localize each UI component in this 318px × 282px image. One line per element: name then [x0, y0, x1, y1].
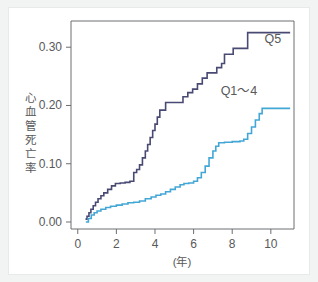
series-labels: Q5Q1〜4 — [221, 32, 281, 98]
y-tick-label: 0.00 — [39, 215, 63, 229]
series-line-q5 — [85, 33, 290, 219]
y-axis-title: 心血管死亡率 — [25, 92, 37, 174]
cardiovascular-mortality-chart: 0.000.100.200.30 0246810 Q5Q1〜4 心血管死亡率 (… — [9, 8, 311, 276]
axes-group — [71, 21, 294, 229]
y-axis-title-char: 心 — [25, 92, 37, 104]
y-axis-title-char: 血 — [25, 105, 37, 118]
series-label-q1-4: Q1〜4 — [221, 84, 258, 98]
x-tick-label: 8 — [229, 237, 236, 251]
x-axis-title: (年) — [173, 255, 192, 268]
y-axis-title-char: 死 — [25, 134, 37, 146]
figure-root: 0.000.100.200.30 0246810 Q5Q1〜4 心血管死亡率 (… — [0, 0, 318, 282]
x-tick-label: 6 — [190, 237, 197, 251]
y-axis-ticks: 0.000.100.200.30 — [39, 40, 71, 229]
x-tick-label: 4 — [152, 237, 159, 251]
x-tick-label: 2 — [113, 237, 120, 251]
y-axis-title-char: 率 — [25, 161, 36, 174]
series-line-q1-4 — [86, 108, 290, 222]
plot-frame — [71, 21, 294, 229]
y-axis-title-char: 亡 — [25, 147, 36, 160]
series-group — [85, 33, 290, 222]
x-axis-ticks: 0246810 — [74, 229, 277, 251]
y-tick-label: 0.10 — [39, 157, 63, 171]
y-axis-title-char: 管 — [25, 119, 36, 132]
y-tick-label: 0.20 — [39, 98, 63, 112]
figure-panel: 0.000.100.200.30 0246810 Q5Q1〜4 心血管死亡率 (… — [8, 7, 310, 275]
series-label-q5: Q5 — [264, 32, 281, 46]
x-tick-label: 10 — [264, 237, 278, 251]
x-tick-label: 0 — [74, 237, 81, 251]
y-tick-label: 0.30 — [39, 40, 63, 54]
